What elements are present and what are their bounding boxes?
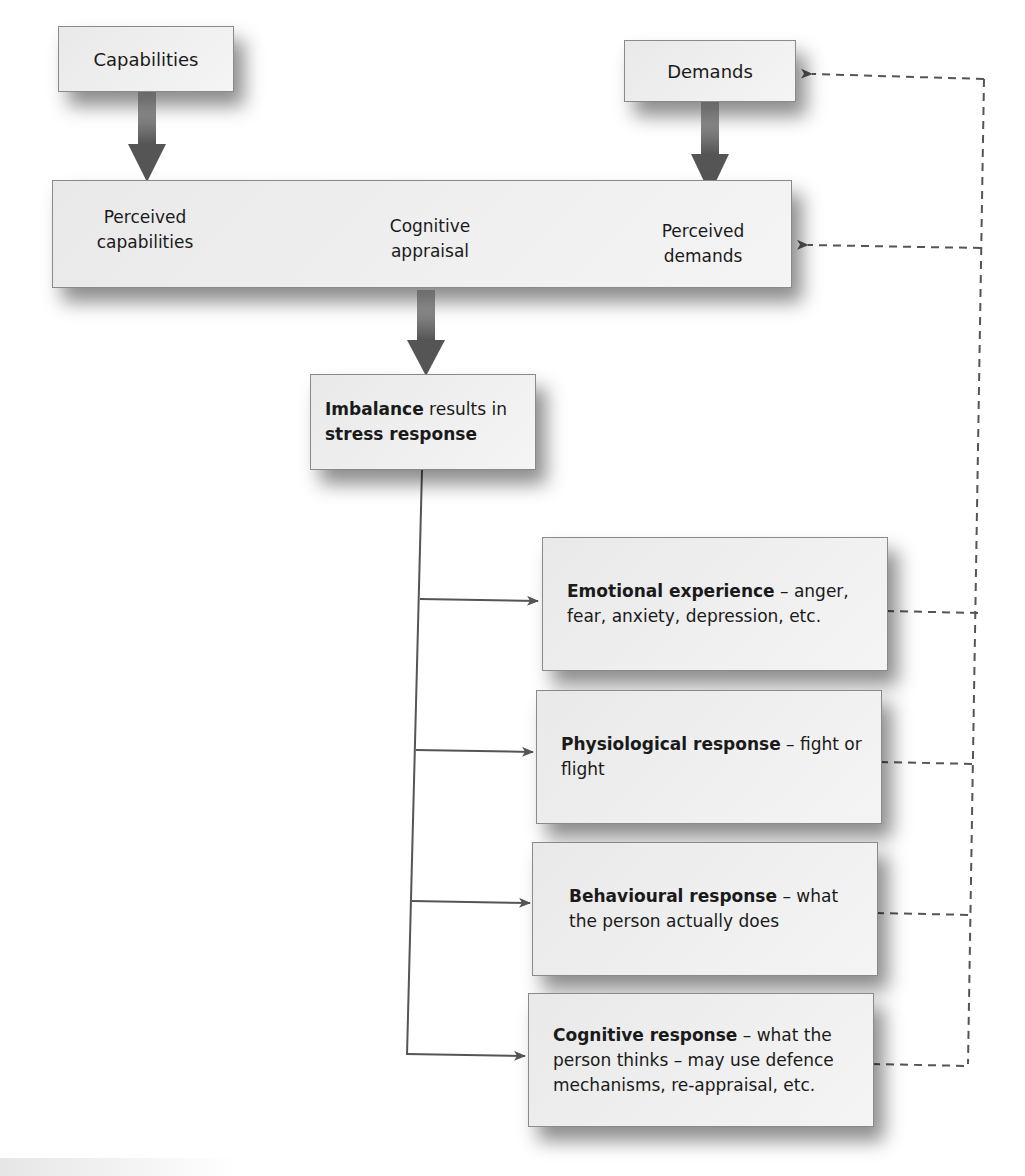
capabilities-box: Capabilities [58,26,234,92]
imbalance-text: Imbalance results in stress response [325,397,535,447]
cognitive-response-text: Cognitive response – what the person thi… [553,1023,859,1098]
page-edge-shadow [0,1158,240,1176]
demands-label: Demands [667,59,753,84]
behavioural-response-text: Behavioural response – what the person a… [569,884,863,934]
perceived-capabilities-label: Perceived capabilities [70,205,220,255]
demands-box: Demands [624,40,796,102]
stress-branch-connectors [407,470,538,1056]
emotional-experience-text: Emotional experience – anger, fear, anxi… [567,579,873,629]
arrow-capabilities-down [128,92,166,182]
physiological-response-box: Physiological response – fight or flight [536,690,882,824]
cognitive-appraisal-label: Cognitive appraisal [355,214,505,264]
cognitive-response-box: Cognitive response – what the person thi… [528,993,874,1127]
perceived-demands-label: Perceived demands [628,219,778,269]
emotional-experience-box: Emotional experience – anger, fear, anxi… [542,537,888,671]
arrow-appraisal-down [407,290,445,376]
physiological-response-text: Physiological response – fight or flight [561,732,867,782]
imbalance-stress-response-box: Imbalance results in stress response [310,374,536,470]
behavioural-response-box: Behavioural response – what the person a… [532,842,878,976]
capabilities-label: Capabilities [94,47,199,72]
